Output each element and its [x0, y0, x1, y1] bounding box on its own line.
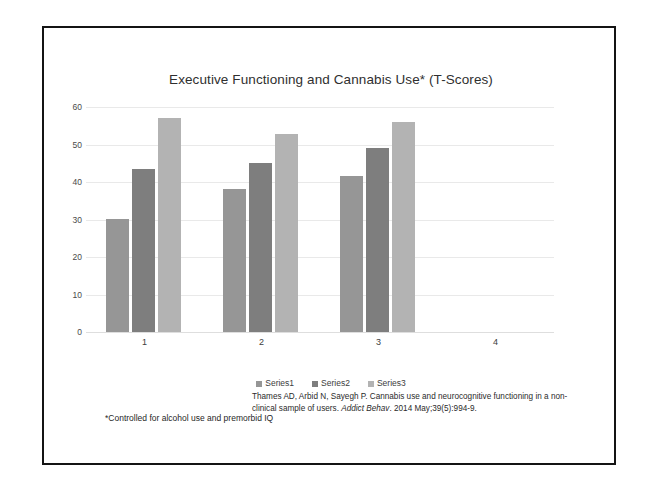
citation-line-1: Thames AD, Arbid N, Sayegh P. Cannabis u…	[252, 392, 549, 401]
bar-group	[86, 107, 203, 332]
bar-series3-cat3[interactable]	[392, 122, 415, 332]
bar-series2-cat3[interactable]	[366, 148, 389, 332]
legend-item-series2[interactable]: Series2	[312, 378, 350, 388]
legend-item-series3[interactable]: Series3	[368, 378, 406, 388]
bar-series3-cat1[interactable]	[158, 118, 181, 332]
x-axis-tick-label: 2	[242, 338, 282, 347]
legend-label: Series2	[321, 378, 350, 388]
legend-swatch-icon	[312, 381, 318, 387]
bar-series2-cat1[interactable]	[132, 169, 155, 332]
citation-line-2-suffix: . 2014 May;39(5):994-9.	[389, 404, 476, 413]
bar-series1-cat3[interactable]	[340, 176, 363, 332]
legend-label: Series3	[377, 378, 406, 388]
citation-journal-name: Addict Behav	[341, 404, 389, 413]
legend-item-series1[interactable]: Series1	[256, 378, 294, 388]
x-axis-tick-label: 1	[125, 338, 165, 347]
citation-text: Thames AD, Arbid N, Sayegh P. Cannabis u…	[252, 391, 588, 414]
chart-legend: Series1Series2Series3	[44, 377, 618, 388]
x-axis-tick-label: 3	[359, 338, 399, 347]
bar-series3-cat2[interactable]	[275, 134, 298, 332]
legend-swatch-icon	[256, 381, 262, 387]
bar-series1-cat2[interactable]	[223, 189, 246, 332]
slide-frame: Executive Functioning and Cannabis Use* …	[42, 26, 616, 465]
bars-layer	[86, 107, 554, 332]
x-axis-tick-label: 4	[476, 338, 516, 347]
legend-label: Series1	[265, 378, 294, 388]
y-axis-tick-label: 20	[52, 253, 82, 262]
x-axis: 1234	[86, 338, 554, 352]
bar-group	[320, 107, 437, 332]
y-axis-tick-label: 40	[52, 178, 82, 187]
bar-group	[437, 107, 554, 332]
y-axis-tick-label: 0	[52, 328, 82, 337]
legend-swatch-icon	[368, 381, 374, 387]
bar-series1-cat1[interactable]	[106, 219, 129, 332]
y-axis-tick-label: 60	[52, 103, 82, 112]
y-axis-tick-label: 10	[52, 290, 82, 299]
footnote-text: *Controlled for alcohol use and premorbi…	[105, 413, 273, 424]
gridline	[86, 332, 554, 333]
y-axis-tick-label: 50	[52, 140, 82, 149]
bar-series2-cat2[interactable]	[249, 163, 272, 333]
y-axis-tick-label: 30	[52, 215, 82, 224]
bar-group	[203, 107, 320, 332]
